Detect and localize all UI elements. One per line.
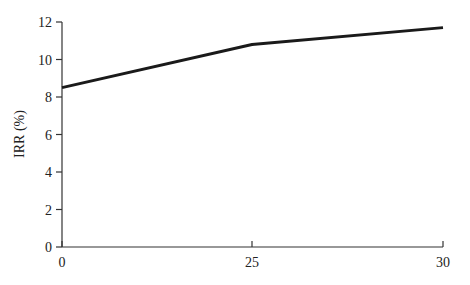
- y-tick-label: 0: [45, 240, 52, 255]
- y-tick-label: 4: [45, 165, 52, 180]
- x-tick-label: 25: [245, 255, 259, 270]
- y-axis-title: IRR (%): [12, 110, 28, 158]
- y-tick-label: 6: [45, 128, 52, 143]
- y-tick-label: 12: [38, 15, 52, 30]
- irr-line: [62, 28, 443, 88]
- y-axis: 024681012: [38, 15, 62, 255]
- x-tick-label: 0: [59, 255, 66, 270]
- line-chart: 024681012 02530 IRR (%): [0, 0, 470, 285]
- x-tick-label: 30: [436, 255, 450, 270]
- x-axis: 02530: [59, 241, 451, 270]
- y-tick-label: 2: [45, 203, 52, 218]
- y-tick-label: 10: [38, 53, 52, 68]
- y-tick-label: 8: [45, 90, 52, 105]
